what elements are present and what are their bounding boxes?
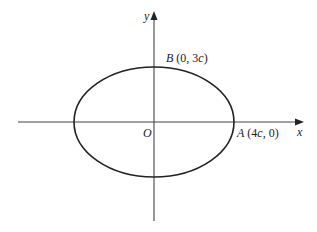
point-b-coords-open: (0, 3: [173, 51, 198, 65]
y-axis-label: y: [143, 9, 150, 23]
ellipse-diagram: y x O B (0, 3c) A (4c, 0): [0, 0, 317, 232]
point-a-coords-close: , 0): [263, 126, 279, 140]
point-a-label: A (4c, 0): [236, 126, 279, 140]
point-b-coords-close: ): [204, 51, 208, 65]
y-axis-arrow-icon: [151, 11, 158, 20]
origin-label: O: [143, 126, 152, 140]
point-a-coords-open: (4: [244, 126, 257, 140]
point-b-label: B (0, 3c): [166, 51, 208, 65]
x-axis-label: x: [296, 125, 303, 139]
